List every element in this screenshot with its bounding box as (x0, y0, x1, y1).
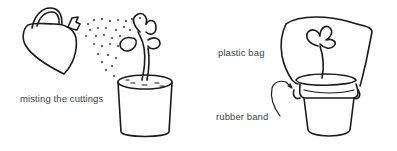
watering-can-icon (23, 8, 80, 74)
misting-caption: misting the cuttings (20, 93, 103, 104)
plastic-bag-label: plastic bag (218, 47, 265, 58)
misting-panel: misting the cuttings (0, 0, 200, 151)
plastic-bag-icon (281, 17, 372, 86)
spray-dots-icon (85, 17, 141, 77)
rubber-band-label: rubber band (216, 111, 268, 122)
bagged-pot-icon (293, 26, 359, 136)
pot-icon (118, 14, 172, 137)
bagged-panel: plastic bag rubber band (200, 0, 397, 151)
misting-illustration (0, 0, 200, 151)
bagged-cutting-illustration (200, 0, 397, 151)
rubber-band-pointer-icon (271, 81, 292, 116)
